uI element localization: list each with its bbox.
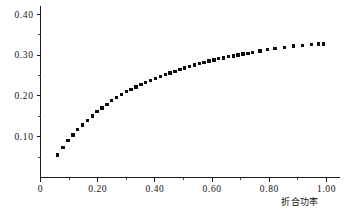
data-point (198, 62, 201, 65)
data-point (193, 63, 196, 66)
data-point (91, 114, 94, 117)
data-point (310, 43, 313, 46)
data-point (301, 44, 304, 47)
data-point (217, 57, 220, 60)
data-point (266, 48, 269, 51)
data-point (241, 52, 244, 55)
data-point (232, 54, 235, 57)
data-point (273, 47, 276, 50)
data-point (236, 53, 239, 56)
plot-background (0, 0, 347, 212)
data-point (178, 68, 181, 71)
x-tick-label: 0 (38, 184, 43, 194)
data-point (159, 75, 162, 78)
data-point (168, 71, 171, 74)
y-tick-label: 0.40 (14, 10, 33, 20)
data-point (71, 133, 74, 136)
data-point (292, 44, 295, 47)
data-point (202, 61, 205, 64)
data-point (258, 49, 261, 52)
x-tick-label: 0.80 (260, 184, 279, 194)
data-point (283, 46, 286, 49)
data-point (120, 93, 123, 96)
data-point (56, 153, 59, 156)
data-point (139, 83, 142, 86)
data-point (129, 88, 132, 91)
data-point (110, 99, 113, 102)
data-point (144, 81, 147, 84)
data-point (183, 66, 186, 69)
scatter-plot: 00.200.400.600.801.00 0.100.200.300.40 折… (0, 0, 347, 212)
data-point (105, 103, 108, 106)
data-point (246, 52, 249, 55)
data-point (125, 90, 128, 93)
y-tick-label: 0.20 (14, 91, 33, 101)
data-point (322, 42, 325, 45)
x-tick-label: 1.00 (317, 184, 336, 194)
y-tick-label: 0.10 (14, 132, 33, 142)
data-point (207, 59, 210, 62)
x-tick-label: 0.60 (203, 184, 222, 194)
data-point (86, 119, 89, 122)
data-point (81, 123, 84, 126)
x-tick-label: 0.40 (145, 184, 164, 194)
data-point (149, 79, 152, 82)
data-point (251, 51, 254, 54)
data-point (115, 96, 118, 99)
x-axis-title: 折合功率 (281, 196, 318, 207)
data-point (188, 65, 191, 68)
data-point (66, 139, 69, 142)
data-point (212, 58, 215, 61)
data-point (227, 55, 230, 58)
data-point (76, 128, 79, 131)
data-point (100, 106, 103, 109)
data-point (164, 73, 167, 76)
data-point (95, 110, 98, 113)
data-point (154, 77, 157, 80)
data-point (61, 146, 64, 149)
data-point (173, 70, 176, 73)
x-tick-label: 0.20 (88, 184, 107, 194)
y-tick-label: 0.30 (14, 50, 33, 60)
data-point (317, 42, 320, 45)
data-point (222, 56, 225, 59)
data-point (134, 85, 137, 88)
